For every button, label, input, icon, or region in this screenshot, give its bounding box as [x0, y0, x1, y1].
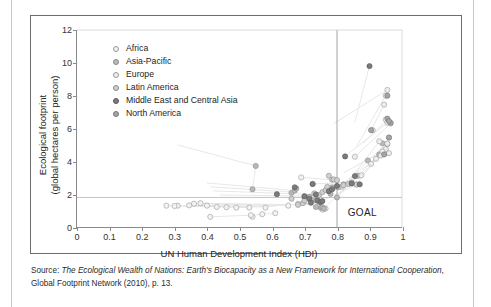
y-tick-label: 12 — [62, 25, 72, 35]
legend-item[interactable]: Latin America — [113, 81, 238, 94]
data-point — [334, 178, 339, 183]
x-tick-mark — [207, 227, 208, 231]
series-europe — [334, 87, 393, 190]
data-point — [357, 182, 362, 187]
legend-item-label: Middle East and Central Asia — [126, 96, 238, 105]
legend-marker-icon — [113, 72, 119, 78]
data-point — [289, 196, 294, 201]
legend-item[interactable]: Asia-Pacific — [113, 55, 238, 68]
x-tick-mark — [142, 227, 143, 231]
chart-legend: AfricaAsia-PacificEuropeLatin AmericaMid… — [113, 42, 238, 120]
series-north-america — [369, 93, 394, 157]
data-point — [310, 181, 315, 186]
page-margin-rule-right — [473, 0, 474, 307]
data-point — [334, 183, 339, 188]
data-point — [330, 187, 335, 192]
data-point — [224, 205, 229, 210]
data-point — [274, 192, 279, 197]
data-point — [308, 200, 313, 205]
data-point — [349, 181, 354, 186]
data-point — [204, 203, 209, 208]
legend-item-label: Latin America — [126, 83, 179, 92]
data-point — [247, 205, 252, 210]
trajectory-line — [178, 145, 256, 166]
data-point — [343, 154, 348, 159]
x-tick-label: 0.5 — [234, 232, 247, 242]
data-point — [302, 194, 307, 199]
x-tick-mark — [175, 227, 176, 231]
x-tick-label: 0.4 — [201, 232, 214, 242]
data-point — [373, 156, 378, 161]
x-tick-label: 0.8 — [332, 232, 345, 242]
legend-item[interactable]: Middle East and Central Asia — [113, 94, 238, 107]
y-axis-title: Ecological footprint (global hectares pe… — [37, 55, 61, 215]
x-tick-label: 0.1 — [103, 232, 116, 242]
data-point — [292, 185, 297, 190]
data-point — [198, 201, 203, 206]
data-point — [214, 204, 219, 209]
y-axis-title-line1: Ecological footprint — [37, 94, 48, 174]
data-point — [313, 204, 318, 209]
data-point — [187, 203, 192, 208]
trajectory-line — [210, 215, 251, 217]
caption-title: The Ecological Wealth of Nations: Earth'… — [62, 266, 442, 275]
trajectory-line — [357, 96, 386, 147]
data-point — [191, 201, 196, 206]
data-point — [385, 93, 390, 98]
x-tick-label: 0.3 — [169, 232, 182, 242]
legend-marker-icon — [113, 111, 119, 117]
x-tick-label: 0 — [74, 232, 79, 242]
legend-item-label: North America — [126, 109, 181, 118]
data-point — [359, 173, 364, 178]
y-tick-label: 8 — [67, 91, 72, 101]
x-tick-mark — [370, 227, 371, 231]
data-point — [320, 198, 325, 203]
data-point — [386, 151, 391, 156]
x-tick-label: 0.2 — [136, 232, 149, 242]
data-point — [260, 212, 265, 217]
data-point — [382, 102, 387, 107]
legend-marker-icon — [113, 98, 119, 104]
data-point — [386, 119, 391, 124]
x-tick-mark — [110, 227, 111, 231]
legend-item-label: Asia-Pacific — [126, 57, 171, 66]
x-tick-mark — [77, 227, 78, 231]
data-point — [250, 187, 255, 192]
data-point — [369, 161, 374, 166]
legend-marker-icon — [113, 46, 119, 52]
data-point — [253, 163, 258, 168]
y-tick-label: 0 — [67, 223, 72, 233]
legend-item-label: Europe — [126, 70, 154, 79]
y-tick-label: 6 — [67, 124, 72, 134]
legend-item[interactable]: Africa — [113, 42, 238, 55]
data-point — [352, 174, 357, 179]
data-point — [273, 211, 278, 216]
legend-item[interactable]: Europe — [113, 68, 238, 81]
trajectory-line — [220, 195, 311, 196]
x-tick-label: 0.6 — [266, 232, 279, 242]
data-point — [334, 195, 339, 200]
data-point — [164, 203, 169, 208]
data-point — [385, 141, 390, 146]
trajectory-line — [253, 166, 256, 189]
trajectory-line — [344, 144, 386, 184]
data-point — [172, 203, 177, 208]
y-tick-label: 4 — [67, 157, 72, 167]
x-tick-label: 1 — [400, 232, 405, 242]
data-point — [299, 175, 304, 180]
plot-area: 024681012 00.10.20.30.40.50.60.70.80.91 … — [76, 30, 402, 228]
x-tick-mark — [338, 227, 339, 231]
source-caption: Source: The Ecological Wealth of Nations… — [31, 265, 451, 290]
data-point — [386, 135, 391, 140]
legend-marker-icon — [113, 59, 119, 65]
x-tick-mark — [273, 227, 274, 231]
y-tick-label: 10 — [62, 58, 72, 68]
data-point — [313, 192, 318, 197]
legend-item[interactable]: North America — [113, 107, 238, 120]
x-tick-mark — [305, 227, 306, 231]
y-axis-title-line2: (global hectares per person) — [49, 55, 61, 215]
x-tick-label: 0.9 — [364, 232, 377, 242]
goal-quadrant-label: GOAL — [348, 206, 377, 217]
series-middle-east-and-central-asia — [274, 64, 372, 206]
data-point — [286, 203, 291, 208]
